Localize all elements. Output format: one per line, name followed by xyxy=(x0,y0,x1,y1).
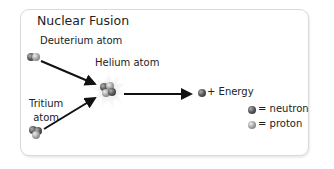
deuterium-label: Deuterium atom xyxy=(40,35,122,46)
tritium-atom-icon xyxy=(29,126,42,139)
legend-neutron-icon xyxy=(248,106,256,114)
legend-proton-icon xyxy=(248,121,256,129)
emitted-neutron-icon xyxy=(198,89,206,97)
tritium-label-line2: atom xyxy=(29,111,63,125)
arrow-deuterium-to-helium xyxy=(41,61,95,84)
diagram-title: Nuclear Fusion xyxy=(37,13,129,28)
tritium-label: Tritium atom xyxy=(29,97,63,125)
legend-neutron-label: = neutron xyxy=(258,103,309,114)
energy-label: + Energy xyxy=(207,86,254,97)
helium-label: Helium atom xyxy=(95,57,159,68)
legend-proton-label: = proton xyxy=(258,118,302,129)
deuterium-atom-icon xyxy=(27,53,40,61)
tritium-label-line1: Tritium xyxy=(29,97,63,111)
